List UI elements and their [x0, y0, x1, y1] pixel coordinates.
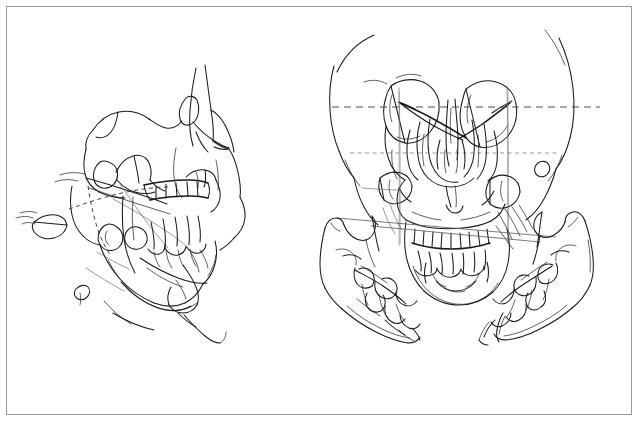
figure-page — [0, 0, 639, 423]
craniofacial-line-drawing — [0, 0, 639, 423]
frontal-skull-view — [330, 30, 574, 305]
lateral-skull-view — [16, 65, 245, 343]
drawing-canvas — [0, 0, 639, 423]
occlusal-plane-reference-line — [337, 218, 556, 237]
frontal-reference-lines — [332, 90, 600, 246]
